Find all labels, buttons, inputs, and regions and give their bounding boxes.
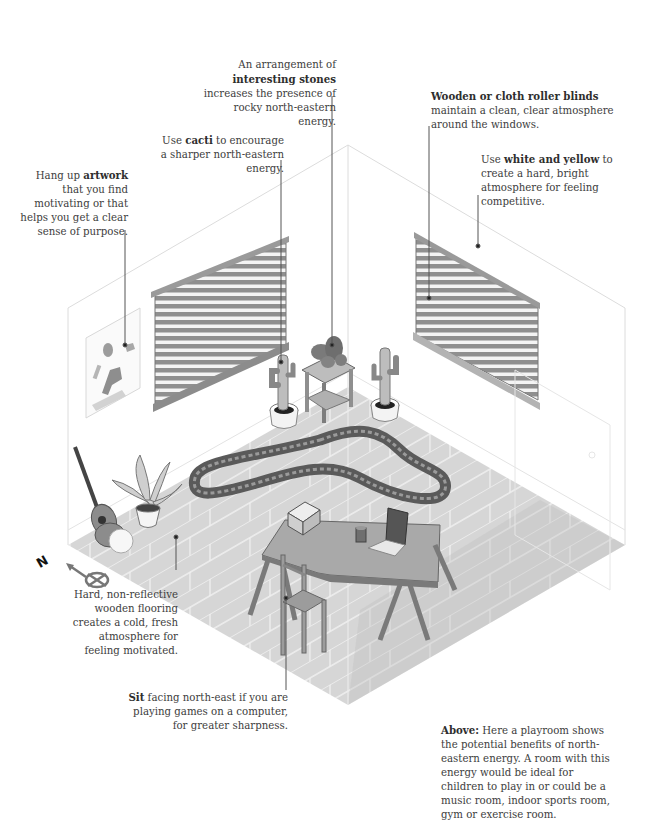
cactus-right [371,348,399,422]
annotation-stones: An arrangement of interesting stones inc… [196,58,336,129]
svg-text:N: N [34,552,51,570]
annotation-blinds: Wooden or cloth roller blinds maintain a… [431,89,616,132]
ball [109,529,133,553]
annotation-sit: Sit facing north-east if you are playing… [120,690,288,733]
artwork [86,308,140,418]
annotation-flooring: Hard, non-reflective wooden flooring cre… [70,588,178,658]
annotation-cacti: Use cacti to encourage a sharper north-e… [160,133,284,176]
figure-caption: Above: Here a playroom shows the potenti… [441,723,613,822]
right-roller-blind [413,232,540,410]
cactus-left [270,355,298,429]
left-roller-blind [151,236,289,412]
annotation-colors: Use white and yellow to create a hard, b… [481,152,621,209]
annotation-artwork: Hang up artwork that you find motivating… [20,168,128,239]
pen-pot [356,526,366,542]
